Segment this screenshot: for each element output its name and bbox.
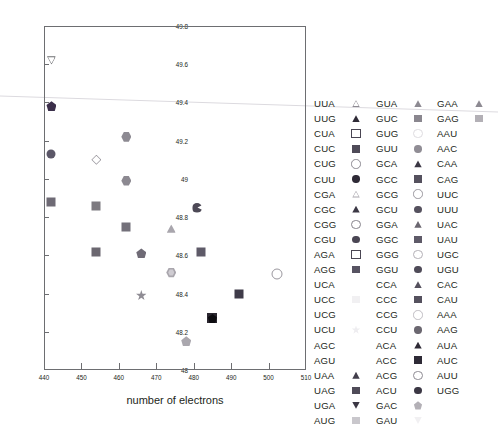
legend-item: UGG [437, 383, 491, 398]
legend-item-marker [344, 266, 368, 273]
legend-item: UGU [437, 262, 491, 277]
legend-item-label: GAU [376, 415, 406, 426]
legend-item-label: AUU [437, 370, 467, 381]
x-tick-label: 470 [151, 374, 162, 381]
legend-item-label: AGC [314, 340, 344, 351]
legend-item: CAA [437, 156, 491, 171]
legend-item-marker [467, 115, 491, 122]
legend-item-marker [406, 326, 430, 333]
legend-item-label: AGA [314, 249, 344, 260]
legend-item-label: UCA [314, 279, 344, 290]
legend-item-label: ACA [376, 340, 406, 351]
data-point [197, 247, 206, 256]
x-tick-label: 490 [226, 374, 237, 381]
x-tick-label: 450 [76, 374, 87, 381]
legend-item: CGG [314, 217, 368, 232]
scatter-plot-figure: 4848.248.448.648.84949.249.449.649.8 440… [0, 0, 498, 429]
legend-item-marker [344, 417, 368, 424]
legend-item-label: AAC [437, 143, 467, 154]
data-point [47, 150, 56, 159]
data-point [91, 155, 101, 165]
legend-item-marker [406, 401, 430, 409]
legend-item-marker [406, 417, 430, 424]
legend-item-label: UUC [437, 189, 467, 200]
legend-item: GUA [376, 96, 430, 111]
data-point [192, 203, 202, 213]
legend-item: CCG [376, 307, 430, 322]
data-point [47, 197, 56, 206]
legend-column-2: GAAGAGAAUAACCAACAGUUCUUUUACUAUUGCUGUCACC… [437, 96, 491, 398]
legend-item: GGA [376, 217, 430, 232]
legend-item-label: ACC [376, 355, 406, 366]
legend-item: AGG [314, 262, 368, 277]
x-tick-label: 500 [263, 374, 274, 381]
legend-item-label: CUC [314, 143, 344, 154]
legend-item-label: AAG [437, 324, 467, 335]
legend-item: ACA [376, 338, 430, 353]
legend-item: GAU [376, 413, 430, 428]
legend-item: CCC [376, 292, 430, 307]
legend-item-marker [344, 296, 368, 303]
legend-item: GCU [376, 202, 430, 217]
legend-item: CCU [376, 322, 430, 337]
legend-item-marker [344, 220, 368, 229]
legend-item-label: AUA [437, 340, 467, 351]
legend-item-label: CCA [376, 279, 406, 290]
legend-item: UAC [437, 217, 491, 232]
legend-item-marker [406, 296, 430, 303]
legend-item: AAU [437, 126, 491, 141]
legend-item-label: CUU [314, 174, 344, 185]
x-axis-label: number of electrons [44, 394, 306, 406]
legend-item-label: CAC [437, 279, 467, 290]
legend-item: GCA [376, 156, 430, 171]
legend-item-marker [344, 159, 368, 168]
data-point-marker [136, 248, 146, 258]
legend-item: CUU [314, 171, 368, 186]
data-point-marker [167, 224, 176, 233]
legend-item: AUU [437, 368, 491, 383]
legend-item: CAU [437, 292, 491, 307]
legend-item-label: CCC [376, 294, 406, 305]
legend-item: CGA [314, 187, 368, 202]
legend-item-marker [406, 129, 430, 138]
legend-column-0: UUAUUGCUACUCCUGCUUCGACGCCGGCGUAGAAGGUCAU… [314, 96, 368, 428]
legend-item-marker [344, 387, 368, 394]
legend-item-label: GAG [437, 113, 467, 124]
legend-item: UAA [314, 368, 368, 383]
legend-item-marker [467, 100, 491, 107]
data-point-marker [122, 222, 131, 231]
data-point [122, 222, 131, 231]
legend-column-1: GUAGUCGUGGUUGCAGCCGCGGCUGGAGGCGGGGGUCCAC… [376, 96, 430, 428]
legend-item-marker [406, 175, 430, 182]
legend-item: CGC [314, 202, 368, 217]
legend-item-label: UAG [314, 385, 344, 396]
legend-item-label: UAC [437, 219, 467, 230]
legend-item-label: GCA [376, 158, 406, 169]
legend-item-label: AGG [314, 264, 344, 275]
legend-item-label: UGG [437, 385, 467, 396]
legend-item: UUA [314, 96, 368, 111]
legend-item: UGA [314, 398, 368, 413]
legend-item-label: GUG [376, 128, 406, 139]
legend-item: CUC [314, 141, 368, 156]
legend-item-label: GUC [376, 113, 406, 124]
legend-item-label: UCG [314, 309, 344, 320]
legend-item-marker [406, 341, 430, 348]
data-point [92, 201, 101, 210]
legend-item: CGU [314, 232, 368, 247]
legend-item: UCG [314, 307, 368, 322]
legend-item-label: CAG [437, 174, 467, 185]
legend-item-marker [406, 115, 430, 122]
data-point-marker [47, 197, 56, 206]
legend-item-marker [344, 402, 368, 409]
legend-item: CAG [437, 171, 491, 186]
legend-item: GGU [376, 262, 430, 277]
legend-item-label: GCC [376, 174, 406, 185]
legend-item: ACU [376, 383, 430, 398]
legend-item: ACC [376, 353, 430, 368]
plot-area [44, 26, 306, 370]
legend-item-label: UUA [314, 98, 344, 109]
data-point-marker [46, 101, 56, 111]
legend-item-marker [406, 387, 430, 394]
legend-item: AAG [437, 322, 491, 337]
